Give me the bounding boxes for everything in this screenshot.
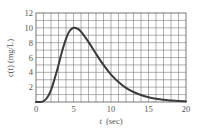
x-axis-ticks: 05101520 [34,104,190,114]
y-tick-label: 10 [25,23,34,33]
concentration-chart: 24681012 05101520 t (sec) c(t) (mg/L) [0,0,201,134]
x-tick-label: 0 [34,104,38,114]
y-tick-label: 12 [25,8,34,18]
x-tick-label: 15 [144,104,153,114]
x-tick-label: 20 [182,104,191,114]
y-tick-label: 6 [29,53,33,63]
y-tick-label: 4 [29,67,34,77]
y-tick-label: 8 [29,38,33,48]
x-tick-label: 5 [71,104,75,114]
chart-grid [36,13,186,102]
y-axis-ticks: 24681012 [25,8,34,92]
x-axis-label: t (sec) [99,116,122,126]
x-tick-label: 10 [107,104,116,114]
y-axis-label: c(t) (mg/L) [5,39,15,77]
y-tick-label: 2 [29,82,33,92]
